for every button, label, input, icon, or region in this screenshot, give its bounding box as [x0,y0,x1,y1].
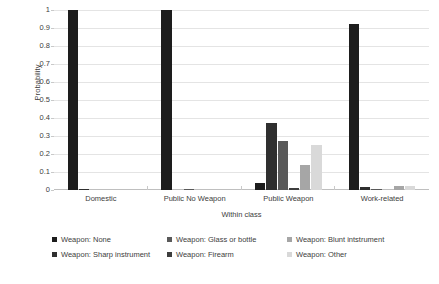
legend-swatch-icon [167,252,172,257]
bar-group-inner [255,10,323,190]
x-axis-title: Within class [54,210,429,219]
bar[interactable] [184,189,194,190]
bar[interactable] [68,10,78,190]
x-axis-tick-label: Work-related [335,194,429,203]
legend-label: Weapon: Blunt intstrument [296,235,384,244]
legend-item[interactable]: Weapon: Firearm [167,250,287,259]
legend-item[interactable]: Weapon: Glass or bottle [167,235,287,244]
bar[interactable] [371,189,381,190]
x-axis-tick-label: Public No Weapon [148,194,242,203]
bar[interactable] [161,10,171,190]
legend-swatch-icon [167,237,172,242]
y-axis-tick-label: 0.1 [20,168,50,176]
x-axis-tick-label: Public Weapon [242,194,336,203]
bar-group [54,10,148,190]
y-axis-tick-label: 0.8 [20,42,50,50]
bar[interactable] [360,187,370,190]
bar[interactable] [349,24,359,190]
bar[interactable] [300,165,310,190]
y-axis-tick-label: 1 [20,6,50,14]
legend-label: Weapon: Glass or bottle [176,235,256,244]
legend-item[interactable]: Weapon: Sharp instrument [52,250,167,259]
bar[interactable] [394,186,404,190]
legend-swatch-icon [52,252,57,257]
bar-group-inner [348,10,416,190]
bar-group-inner [67,10,135,190]
legend-swatch-icon [287,237,292,242]
bar-group-inner [161,10,229,190]
legend-item[interactable]: Weapon: None [52,235,167,244]
y-axis-tick-label: 0 [20,186,50,194]
bar[interactable] [79,189,89,190]
legend-label: Weapon: None [61,235,111,244]
x-axis-tick-labels: DomesticPublic No WeaponPublic WeaponWor… [54,194,429,203]
plot-area: Probability 00.10.20.30.40.50.60.70.80.9… [0,0,439,226]
legend-item[interactable]: Weapon: Blunt intstrument [287,235,412,244]
bar-group [148,10,242,190]
bar[interactable] [255,183,265,190]
y-axis-tick-label: 0.7 [20,60,50,68]
y-axis-tick-label: 0.2 [20,150,50,158]
legend-label: Weapon: Firearm [176,250,234,259]
y-axis-tick-label: 0.4 [20,114,50,122]
y-axis-tick-label: 0.3 [20,132,50,140]
bar[interactable] [311,145,321,190]
bar-groups [54,10,429,190]
y-axis-tick-label: 0.9 [20,24,50,32]
x-axis-tick-label: Domestic [54,194,148,203]
y-axis-tickmark [51,190,54,191]
y-axis-tick-labels: 00.10.20.30.40.50.60.70.80.91 [20,10,50,190]
legend-swatch-icon [52,237,57,242]
bar-group [242,10,336,190]
bar[interactable] [266,123,276,190]
bar-chart: Probability 00.10.20.30.40.50.60.70.80.9… [0,0,439,284]
chart-legend: Weapon: NoneWeapon: Glass or bottleWeapo… [52,232,412,262]
legend-label: Weapon: Other [296,250,347,259]
legend-label: Weapon: Sharp instrument [61,250,150,259]
legend-item[interactable]: Weapon: Other [287,250,412,259]
bar[interactable] [278,141,288,190]
legend-swatch-icon [287,252,292,257]
bar[interactable] [289,188,299,190]
y-axis-tick-label: 0.5 [20,96,50,104]
bar-group [335,10,429,190]
y-axis-tick-label: 0.6 [20,78,50,86]
bar[interactable] [405,186,415,190]
